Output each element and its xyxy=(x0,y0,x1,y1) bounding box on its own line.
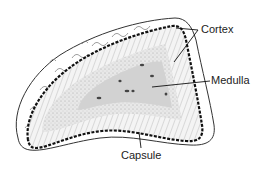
adrenal-gland-diagram: Cortex Medulla Capsule xyxy=(0,0,272,176)
label-medulla: Medulla xyxy=(211,75,250,86)
label-capsule: Capsule xyxy=(121,150,161,161)
label-cortex: Cortex xyxy=(201,24,233,35)
